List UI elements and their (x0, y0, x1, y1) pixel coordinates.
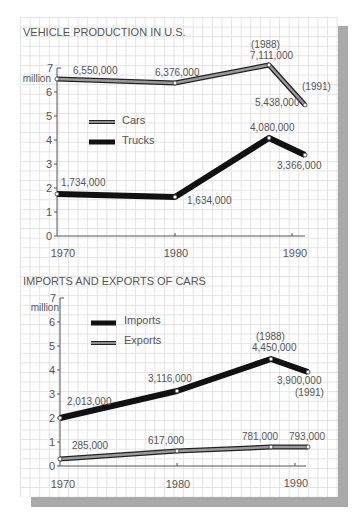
svg-text:4: 4 (49, 364, 55, 376)
legend-item-cars: Cars (89, 114, 146, 126)
svg-text:5: 5 (49, 340, 55, 352)
svg-text:(1988): (1988) (256, 331, 285, 342)
svg-text:1990: 1990 (283, 247, 307, 259)
svg-text:(1988): (1988) (251, 39, 280, 50)
svg-text:Trucks: Trucks (122, 134, 155, 146)
svg-text:3,900,000: 3,900,000 (277, 375, 322, 386)
svg-text:3,116,000: 3,116,000 (148, 373, 192, 384)
svg-text:6: 6 (46, 86, 52, 98)
svg-text:1970: 1970 (51, 247, 75, 259)
charts-svg: VEHICLE PRODUCTION IN U.S. 7 6 5 4 3 2 1… (0, 0, 356, 522)
svg-text:6: 6 (49, 316, 55, 328)
svg-text:1990: 1990 (284, 477, 308, 489)
svg-text:781,000: 781,000 (242, 431, 279, 442)
svg-text:7,111,000: 7,111,000 (250, 50, 293, 61)
svg-text:1,734,000: 1,734,000 (61, 177, 106, 188)
svg-text:1: 1 (49, 436, 55, 448)
svg-text:5: 5 (46, 110, 52, 122)
chart-title: IMPORTS AND EXPORTS OF CARS (23, 275, 206, 287)
legend-item-trucks: Trucks (89, 134, 155, 146)
svg-text:617,000: 617,000 (148, 435, 185, 446)
svg-text:0: 0 (46, 230, 52, 242)
svg-text:1970: 1970 (51, 478, 75, 490)
chart-title: VEHICLE PRODUCTION IN U.S. (23, 26, 186, 38)
svg-text:3,366,000: 3,366,000 (277, 160, 322, 171)
y-tick-labels: 7 6 5 4 3 2 1 0 (46, 62, 53, 242)
y-tick-labels: 7 6 5 4 3 2 1 0 (49, 292, 56, 472)
svg-text:(1991): (1991) (295, 387, 324, 398)
svg-text:2: 2 (49, 412, 55, 424)
x-tick-labels: 1970 1980 1990 (51, 247, 307, 259)
vehicle-production-chart: VEHICLE PRODUCTION IN U.S. 7 6 5 4 3 2 1… (23, 26, 331, 259)
legend-item-imports: Imports (91, 314, 161, 326)
y-unit-label: million (23, 73, 51, 84)
svg-text:3: 3 (49, 388, 55, 400)
svg-text:6,376,000: 6,376,000 (155, 67, 200, 78)
y-unit-label: million (31, 302, 59, 313)
svg-text:6,550,000: 6,550,000 (73, 65, 118, 76)
svg-text:1980: 1980 (166, 478, 190, 490)
svg-text:2,013,000: 2,013,000 (67, 396, 112, 407)
svg-text:4,080,000: 4,080,000 (250, 122, 295, 133)
svg-text:4: 4 (46, 134, 52, 146)
svg-text:Exports: Exports (124, 334, 162, 346)
legend: Imports Exports (91, 314, 162, 346)
svg-text:793,000: 793,000 (289, 431, 326, 442)
svg-text:Cars: Cars (122, 114, 146, 126)
svg-text:(1991): (1991) (302, 81, 331, 92)
svg-text:4,450,000: 4,450,000 (252, 342, 297, 353)
data-labels: 2,013,000 3,116,000 (1988) 4,450,000 3,9… (67, 331, 326, 451)
svg-text:5,438,000: 5,438,000 (255, 97, 300, 108)
x-tick-labels: 1970 1980 1990 (51, 477, 308, 490)
svg-text:3: 3 (46, 158, 52, 170)
svg-text:0: 0 (49, 460, 55, 472)
imports-exports-chart: IMPORTS AND EXPORTS OF CARS 7 6 5 4 3 2 … (23, 275, 326, 490)
svg-text:1980: 1980 (164, 247, 188, 259)
svg-text:285,000: 285,000 (72, 440, 109, 451)
svg-text:1,634,000: 1,634,000 (187, 195, 232, 206)
svg-text:2: 2 (46, 182, 52, 194)
trucks-line (55, 136, 307, 199)
imports-line (58, 357, 310, 420)
legend: Cars Trucks (89, 114, 155, 146)
legend-item-exports: Exports (91, 334, 162, 346)
svg-text:Imports: Imports (124, 314, 161, 326)
svg-text:1: 1 (46, 206, 52, 218)
